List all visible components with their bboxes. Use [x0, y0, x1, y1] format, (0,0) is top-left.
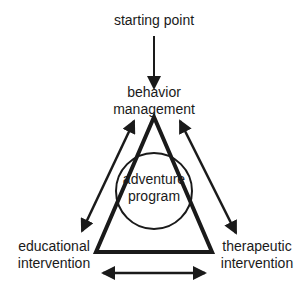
- top-label-line1: behavior: [94, 84, 214, 101]
- adventure-program-label: adventure program: [104, 171, 204, 205]
- center-label-line1: adventure: [104, 171, 204, 188]
- center-label-line2: program: [104, 188, 204, 205]
- top-label-line2: management: [94, 101, 214, 118]
- left-label-line1: educational: [14, 238, 94, 255]
- start-label-text: starting point: [114, 12, 194, 28]
- educational-intervention-label: educational intervention: [14, 238, 94, 272]
- right-label-line2: intervention: [214, 255, 300, 272]
- behavior-management-label: behavior management: [94, 84, 214, 118]
- left-label-line2: intervention: [14, 255, 94, 272]
- right-label-line1: therapeutic: [214, 238, 300, 255]
- therapeutic-intervention-label: therapeutic intervention: [214, 238, 300, 272]
- start-label: starting point: [104, 12, 204, 29]
